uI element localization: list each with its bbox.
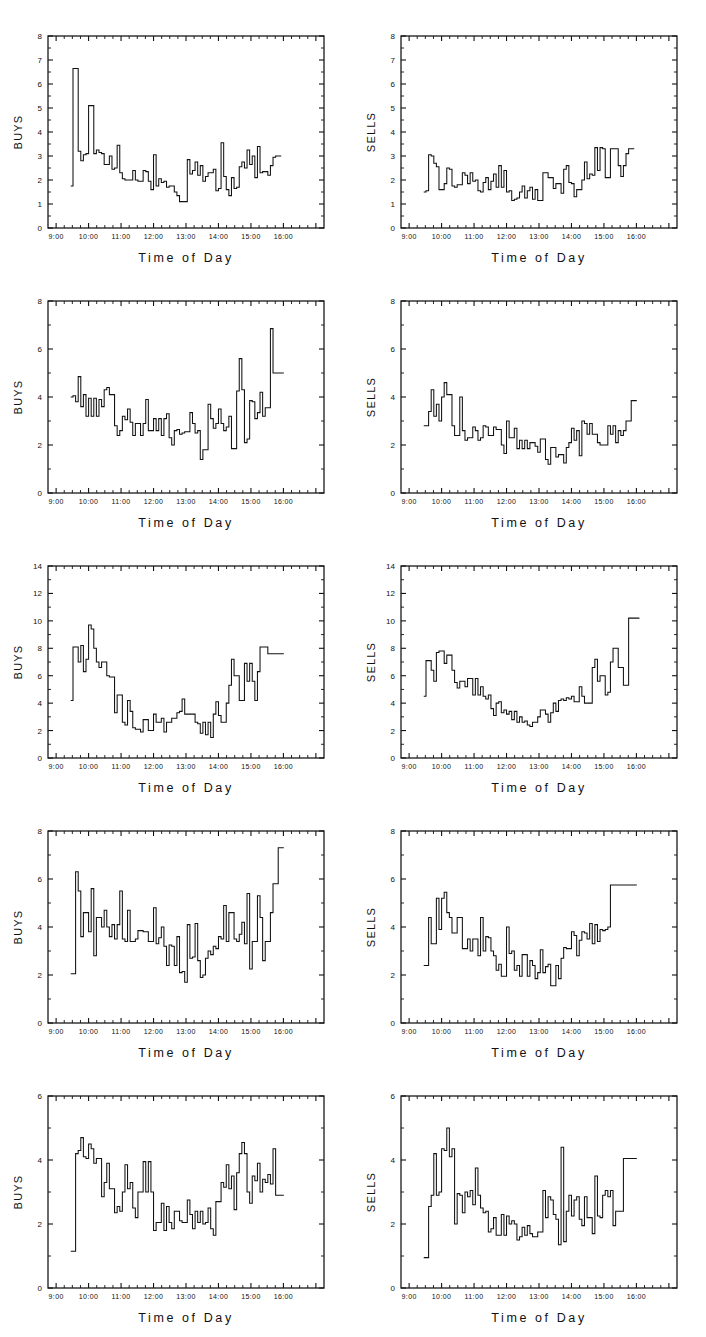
y-tick-label: 6	[391, 345, 396, 354]
x-tick-label: 12:00	[144, 763, 164, 770]
x-tick-label: 16:00	[274, 498, 294, 505]
y-tick-label: 5	[391, 104, 396, 113]
y-axis-title: SELLS	[365, 907, 377, 947]
y-tick-label: 6	[391, 80, 396, 89]
x-tick-label: 16:00	[627, 1028, 647, 1035]
x-axis-title: Time of Day	[138, 251, 234, 265]
x-tick-label: 12:00	[144, 1293, 164, 1300]
y-tick-label: 0	[38, 1284, 43, 1293]
plot-frame	[401, 36, 677, 228]
x-tick-label: 9:00	[49, 1293, 64, 1300]
y-tick-label: 4	[38, 699, 43, 708]
x-tick-label: 15:00	[241, 233, 261, 240]
x-tick-label: 12:00	[497, 233, 517, 240]
x-tick-label: 9:00	[402, 233, 417, 240]
x-tick-label: 13:00	[529, 233, 549, 240]
series-line-3	[71, 329, 284, 460]
x-tick-label: 10:00	[432, 233, 452, 240]
x-axis-title: Time of Day	[138, 516, 234, 530]
x-axis-title: Time of Day	[491, 1046, 587, 1060]
x-tick-label: 13:00	[176, 763, 196, 770]
x-tick-label: 14:00	[209, 233, 229, 240]
y-tick-label: 6	[38, 672, 43, 681]
y-tick-label: 2	[38, 1220, 43, 1229]
plot-frame	[48, 831, 324, 1023]
x-axis-ticks: 9:0010:0011:0012:0013:0014:0015:0016:00	[49, 1096, 316, 1300]
y-tick-label: 0	[391, 489, 396, 498]
x-tick-label: 15:00	[241, 1028, 261, 1035]
plot-frame	[48, 301, 324, 493]
x-tick-label: 15:00	[594, 233, 614, 240]
x-tick-label: 16:00	[627, 1293, 647, 1300]
x-tick-label: 15:00	[594, 498, 614, 505]
y-tick-label: 4	[391, 699, 396, 708]
y-tick-label: 4	[391, 1156, 396, 1165]
y-tick-label: 12	[33, 589, 42, 598]
y-axis-title: BUYS	[12, 1175, 24, 1210]
x-tick-label: 15:00	[594, 763, 614, 770]
y-tick-label: 8	[391, 827, 396, 836]
x-tick-label: 13:00	[529, 1293, 549, 1300]
x-tick-label: 16:00	[274, 233, 294, 240]
y-axis-ticks: 02468101214	[33, 562, 324, 763]
y-tick-label: 0	[391, 1019, 396, 1028]
chart-panel-5: 024681012149:0010:0011:0012:0013:0014:00…	[0, 530, 353, 795]
x-tick-label: 11:00	[112, 1293, 131, 1300]
y-tick-label: 0	[38, 1019, 43, 1028]
x-tick-label: 11:00	[112, 233, 131, 240]
x-tick-label: 15:00	[241, 1293, 261, 1300]
y-tick-label: 2	[38, 971, 43, 980]
y-tick-label: 6	[391, 875, 396, 884]
x-tick-label: 13:00	[176, 1028, 196, 1035]
y-tick-label: 0	[38, 754, 43, 763]
x-tick-label: 16:00	[627, 763, 647, 770]
x-tick-label: 15:00	[594, 1293, 614, 1300]
y-tick-label: 2	[38, 441, 43, 450]
y-tick-label: 1	[391, 200, 396, 209]
series-line-1	[71, 68, 281, 201]
x-tick-label: 16:00	[274, 1293, 294, 1300]
chart-panel-8: 024689:0010:0011:0012:0013:0014:0015:001…	[353, 795, 706, 1060]
chart-panel-9: 02469:0010:0011:0012:0013:0014:0015:0016…	[0, 1060, 353, 1325]
y-tick-label: 4	[38, 128, 43, 137]
y-tick-label: 7	[391, 56, 396, 65]
y-tick-label: 4	[38, 923, 43, 932]
x-tick-label: 11:00	[465, 233, 484, 240]
y-axis-ticks: 02468	[391, 827, 677, 1028]
x-axis-ticks: 9:0010:0011:0012:0013:0014:0015:0016:00	[402, 831, 669, 1035]
x-tick-label: 16:00	[274, 1028, 294, 1035]
y-axis-ticks: 012345678	[391, 32, 677, 233]
x-tick-label: 10:00	[79, 498, 99, 505]
x-tick-label: 11:00	[112, 1028, 131, 1035]
x-tick-label: 11:00	[465, 763, 484, 770]
x-tick-label: 10:00	[79, 233, 99, 240]
x-axis-ticks: 9:0010:0011:0012:0013:0014:0015:0016:00	[49, 831, 316, 1035]
x-axis-title: Time of Day	[491, 781, 587, 795]
x-tick-label: 11:00	[112, 498, 131, 505]
x-axis-title: Time of Day	[491, 1311, 587, 1325]
plot-frame	[401, 566, 677, 758]
y-tick-label: 6	[38, 875, 43, 884]
y-tick-label: 2	[38, 176, 43, 185]
y-axis-title: SELLS	[365, 112, 377, 152]
series-line-5	[71, 625, 284, 737]
x-tick-label: 9:00	[49, 763, 64, 770]
plot-frame	[48, 36, 324, 228]
x-tick-label: 12:00	[497, 1028, 517, 1035]
y-tick-label: 2	[391, 971, 396, 980]
x-tick-label: 16:00	[274, 763, 294, 770]
y-tick-label: 7	[38, 56, 43, 65]
y-tick-label: 1	[38, 200, 43, 209]
chart-panel-10: 02469:0010:0011:0012:0013:0014:0015:0016…	[353, 1060, 706, 1325]
y-tick-label: 4	[38, 1156, 43, 1165]
x-tick-label: 14:00	[562, 233, 582, 240]
y-axis-title: BUYS	[12, 645, 24, 680]
series-line-9	[71, 1138, 284, 1252]
x-axis-title: Time of Day	[491, 251, 587, 265]
x-tick-label: 12:00	[144, 233, 164, 240]
y-tick-label: 6	[38, 345, 43, 354]
y-tick-label: 2	[391, 727, 396, 736]
y-tick-label: 8	[38, 32, 43, 41]
y-tick-label: 14	[33, 562, 42, 571]
x-tick-label: 14:00	[209, 763, 229, 770]
